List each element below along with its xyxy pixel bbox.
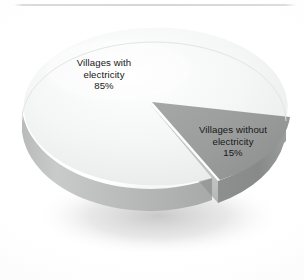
slice-label-with-electricity-line2: electricity [83, 69, 124, 80]
slice-label-with-electricity-line1: Villages with [77, 57, 131, 68]
slice-label-without-electricity-line2: electricity [212, 136, 253, 147]
chart-plot-area: Villages with electricity 85% Villages w… [0, 0, 304, 280]
slice-value-with-electricity: 85% [48, 80, 160, 92]
slice-value-without-electricity: 15% [175, 147, 291, 159]
slice-label-without-electricity: Villages without electricity 15% [175, 124, 291, 159]
slice-label-without-electricity-line1: Villages without [199, 124, 267, 135]
pie-chart-figure: Villages with electricity 85% Villages w… [0, 0, 304, 280]
slice-label-with-electricity: Villages with electricity 85% [48, 57, 160, 92]
